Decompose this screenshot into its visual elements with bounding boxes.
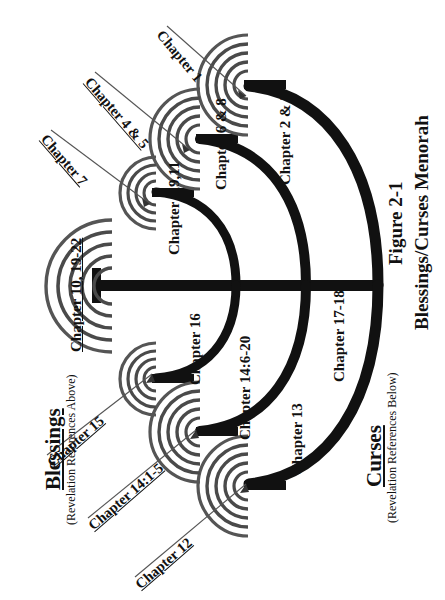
label-chapter-8-9-11: Chapter 8,9,11 xyxy=(166,162,183,255)
flame-chapter-12 xyxy=(198,436,248,536)
figure-caption-line1-text: Figure 2-1 xyxy=(385,181,406,265)
label-chapter-16-text: Chapter 16 xyxy=(187,313,203,385)
flame-chapter-7 xyxy=(120,157,156,229)
label-chapter-10-19-22-text: Chapter 10, 19-22 xyxy=(68,238,84,352)
label-chapter-8-9-11-text: Chapter 8,9,11 xyxy=(166,162,182,255)
label-chapter-17-18-text: Chapter 17-18 xyxy=(331,290,347,382)
label-chapter-10-19-22: Chapter 10, 19-22 xyxy=(68,238,85,352)
label-chapter-13: Chapter 13 xyxy=(289,403,306,475)
figure-caption-line1: Figure 2-1 xyxy=(386,181,406,265)
label-chapter-2-3: Chapter 2 & 3 xyxy=(277,93,294,185)
menorah-branch-outer-top xyxy=(249,86,378,285)
curses-note-text: (Revelation References Below) xyxy=(385,372,399,523)
figure-caption-line2-text: Blessings/Curses Menorah xyxy=(411,115,432,330)
label-chapter-6-8-text: Chapter 6 & 8 xyxy=(213,98,229,190)
figure-canvas: Blessings (Revelation References Above) … xyxy=(0,0,445,600)
label-chapter-14-6-20-text: Chapter 14:6-20 xyxy=(237,336,253,440)
curses-title: Curses xyxy=(363,425,385,487)
menorah-branch-outer-bottom xyxy=(249,285,378,484)
label-chapter-17-18: Chapter 17-18 xyxy=(331,290,348,382)
label-chapter-2-3-text: Chapter 2 & 3 xyxy=(277,93,293,185)
curses-note: (Revelation References Below) xyxy=(383,372,400,523)
figure-caption-line2: Blessings/Curses Menorah xyxy=(412,115,432,330)
label-chapter-16: Chapter 16 xyxy=(187,313,204,385)
label-chapter-13-text: Chapter 13 xyxy=(289,403,305,475)
label-chapter-6-8: Chapter 6 & 8 xyxy=(213,98,230,190)
label-chapter-14-6-20: Chapter 14:6-20 xyxy=(237,336,254,440)
